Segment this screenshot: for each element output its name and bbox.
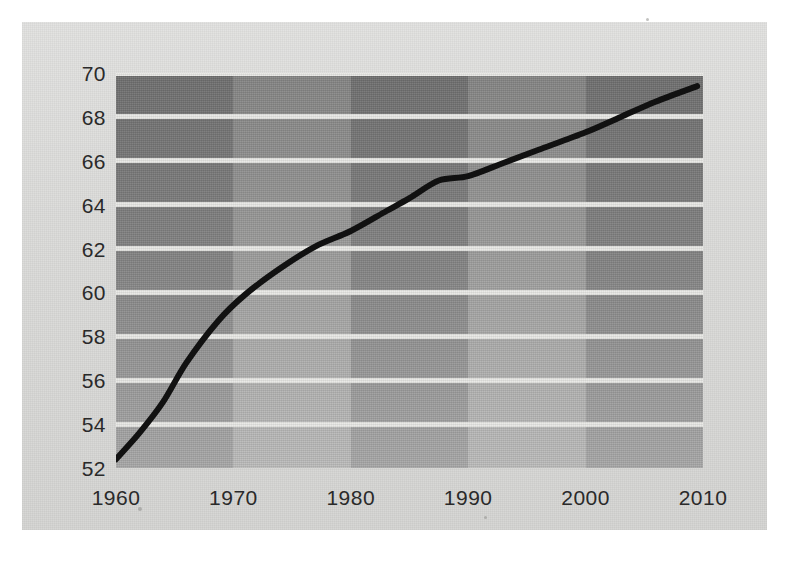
background-band-1980 [351,73,468,468]
x-tick-label-1970: 1970 [188,487,278,508]
y-tick-label-52: 52 [54,458,106,479]
plot-area [116,73,703,468]
x-tick-label-1960: 1960 [71,487,161,508]
x-tick-label-1990: 1990 [423,487,513,508]
background-band-1960 [116,73,233,468]
y-tick-label-62: 62 [54,239,106,260]
y-tick-label-60: 60 [54,282,106,303]
y-tick-label-70: 70 [54,63,106,84]
background-band-1990 [468,73,585,468]
background-band-1970 [233,73,350,468]
background-band-2000 [586,73,703,468]
y-tick-label-68: 68 [54,107,106,128]
y-tick-label-54: 54 [54,414,106,435]
x-axis-tick-labels: 196019701980199020002010 [0,487,789,517]
x-tick-label-2000: 2000 [541,487,631,508]
scan-speck [138,507,142,511]
x-tick-label-2010: 2010 [658,487,748,508]
y-tick-label-58: 58 [54,326,106,347]
x-tick-label-1980: 1980 [306,487,396,508]
chart-figure: 52545658606264666870 1960197019801990200… [0,0,789,574]
scan-speck [484,516,487,519]
scan-speck [646,18,649,21]
y-tick-label-66: 66 [54,151,106,172]
y-tick-label-64: 64 [54,195,106,216]
y-tick-label-56: 56 [54,370,106,391]
